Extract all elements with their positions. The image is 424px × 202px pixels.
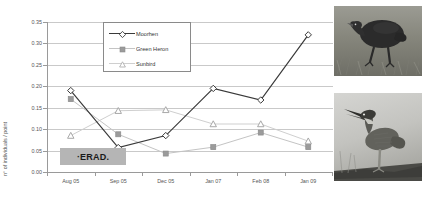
legend-label-green-heron: Green Heron [135,46,168,52]
x-tick-mark [285,172,286,176]
chart-legend[interactable]: Moorhen Green Heron Sunbird [103,22,191,72]
green-heron-photo [334,93,422,181]
x-tick-label: Sep 05 [94,178,142,185]
y-axis-title-text: n° of individuals / point [2,56,8,176]
y-tick-label: 0.05 [32,148,43,154]
chart-figure: 0.35 0.30 0.25 0.20 0.15 0.10 0.05 0.00 … [0,0,424,202]
y-tick-label: 0.15 [32,105,43,111]
data-point [305,138,311,144]
x-tick-label: Dec 05 [142,178,190,185]
x-tick-mark [142,172,143,176]
moorhen-photo [334,6,422,76]
legend-item-sunbird[interactable]: Sunbird [104,56,190,71]
legend-swatch-moorhen [109,29,135,38]
open-diamond-icon [119,31,126,38]
y-tick-label: 0.35 [32,19,43,25]
data-point [68,97,73,102]
legend-swatch-green-heron [109,44,135,53]
legend-label-sunbird: Sunbird [135,61,155,67]
y-axis-title: n° of individuals / point [0,0,2,72]
y-tick-label: 0.20 [32,83,43,89]
data-point [68,132,74,138]
legend-item-green-heron[interactable]: Green Heron [104,41,190,56]
x-tick-mark [332,172,333,176]
x-tick-mark [95,172,96,176]
x-tick-label: Jan 09 [284,178,332,185]
y-tick-label: 0.30 [32,40,43,46]
x-tick-mark [237,172,238,176]
x-tick-label: Jan 07 [189,178,237,185]
y-tick-label: 0.25 [32,62,43,68]
legend-label-moorhen: Moorhen [135,31,158,37]
data-point [258,130,263,135]
data-point [211,145,216,150]
x-tick-mark [47,172,48,176]
y-tick-label: 0.10 [32,126,43,132]
x-tick-label: Feb 08 [237,178,285,185]
legend-swatch-sunbird [109,59,135,68]
x-tick-mark [190,172,191,176]
eradication-annotation-text: ·ERAD. [77,152,109,162]
filled-square-icon [119,46,126,53]
open-triangle-icon [119,61,126,68]
data-point [306,145,311,150]
eradication-annotation: ·ERAD. [60,148,126,165]
x-tick-label: Aug 05 [47,178,95,185]
series-line-green-heron [71,99,309,153]
legend-item-moorhen[interactable]: Moorhen [104,26,190,41]
data-point [116,132,121,137]
y-tick-label: 0.00 [32,169,43,175]
data-point [163,151,168,156]
